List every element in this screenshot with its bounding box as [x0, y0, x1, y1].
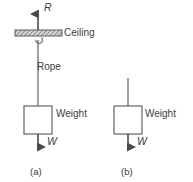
reaction-force-label: R — [44, 2, 52, 13]
hook-icon — [36, 38, 43, 44]
weight-force-label-b: W — [137, 136, 147, 147]
diagram-canvas — [0, 0, 193, 182]
weight-box — [24, 106, 52, 134]
panel-a-group — [15, 14, 62, 147]
weight-label-b: Weight — [145, 108, 176, 119]
weight-force-label-a: W — [47, 136, 57, 147]
panel-caption-a: (a) — [30, 166, 42, 177]
ceiling-label: Ceiling — [64, 27, 95, 38]
panel-caption-b: (b) — [121, 166, 133, 177]
weight-box — [114, 106, 142, 134]
physics-free-body-diagram: R Ceiling Rope Weight W Weight W (a) (b) — [0, 0, 193, 182]
rope-label: Rope — [37, 61, 61, 72]
ceiling-bar — [15, 30, 62, 36]
weight-label-a: Weight — [56, 108, 87, 119]
